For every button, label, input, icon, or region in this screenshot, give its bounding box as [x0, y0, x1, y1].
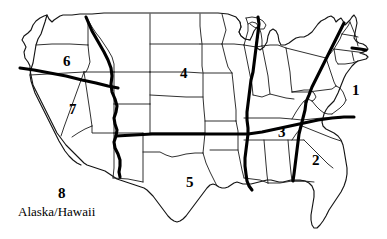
us-regions-map-figure: 1 2 3 4 5 6 7 8 Alaska/Hawaii	[0, 0, 387, 239]
divider-central-horizontal	[116, 134, 248, 136]
offshore-caption-alaska-hawaii: Alaska/Hawaii	[18, 205, 95, 218]
divider-1-coast-tick	[352, 48, 366, 50]
west-coast-detail	[30, 15, 81, 165]
region-label-8: 8	[58, 186, 66, 201]
region-label-3: 3	[278, 125, 286, 140]
region-label-4: 4	[180, 66, 188, 81]
region-label-1: 1	[352, 83, 360, 98]
divider-6-7	[20, 68, 118, 88]
state-boundaries-west	[30, 14, 150, 182]
divider-west-central	[86, 17, 120, 177]
region-label-2: 2	[312, 153, 320, 168]
state-boundaries-plains	[143, 14, 217, 186]
region-label-7: 7	[69, 102, 77, 117]
divider-central-east	[245, 17, 259, 190]
region-label-5: 5	[186, 175, 194, 190]
state-boundaries-great-lakes	[200, 14, 304, 178]
region-label-6: 6	[63, 54, 71, 69]
